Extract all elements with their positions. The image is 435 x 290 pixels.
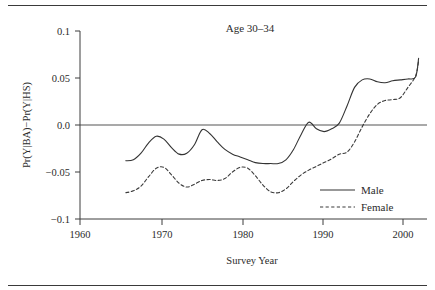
y-tick-label: −0.05 bbox=[46, 167, 70, 178]
y-axis-ticks bbox=[75, 31, 80, 219]
x-tick-label: 2000 bbox=[393, 229, 414, 240]
x-tick-label: 1970 bbox=[152, 229, 173, 240]
x-tick-label: 1960 bbox=[70, 229, 91, 240]
y-tick-label: −0.1 bbox=[51, 214, 70, 225]
legend-label-male: Male bbox=[361, 184, 384, 196]
x-tick-label: 1980 bbox=[233, 229, 254, 240]
y-tick-label: 0.0 bbox=[57, 120, 70, 131]
chart-title: Age 30–34 bbox=[226, 22, 275, 34]
figure-container: 0.1 0.05 0.0 −0.05 −0.1 1960 1970 1980 1… bbox=[0, 0, 435, 290]
legend: Male Female bbox=[320, 184, 393, 213]
y-axis-title: Pr(Y|BA)−Pr(Y|HS) bbox=[21, 82, 33, 168]
series-line-male bbox=[126, 58, 419, 164]
y-tick-label: 0.05 bbox=[52, 73, 70, 84]
line-chart: 0.1 0.05 0.0 −0.05 −0.1 1960 1970 1980 1… bbox=[0, 0, 435, 290]
legend-label-female: Female bbox=[361, 201, 393, 213]
x-tick-label: 1990 bbox=[313, 229, 334, 240]
y-axis-tick-labels: 0.1 0.05 0.0 −0.05 −0.1 bbox=[46, 26, 70, 225]
x-axis-title: Survey Year bbox=[226, 255, 278, 266]
x-axis-tick-labels: 1960 1970 1980 1990 2000 bbox=[70, 229, 414, 240]
x-axis-ticks bbox=[80, 219, 403, 225]
y-tick-label: 0.1 bbox=[57, 26, 70, 37]
